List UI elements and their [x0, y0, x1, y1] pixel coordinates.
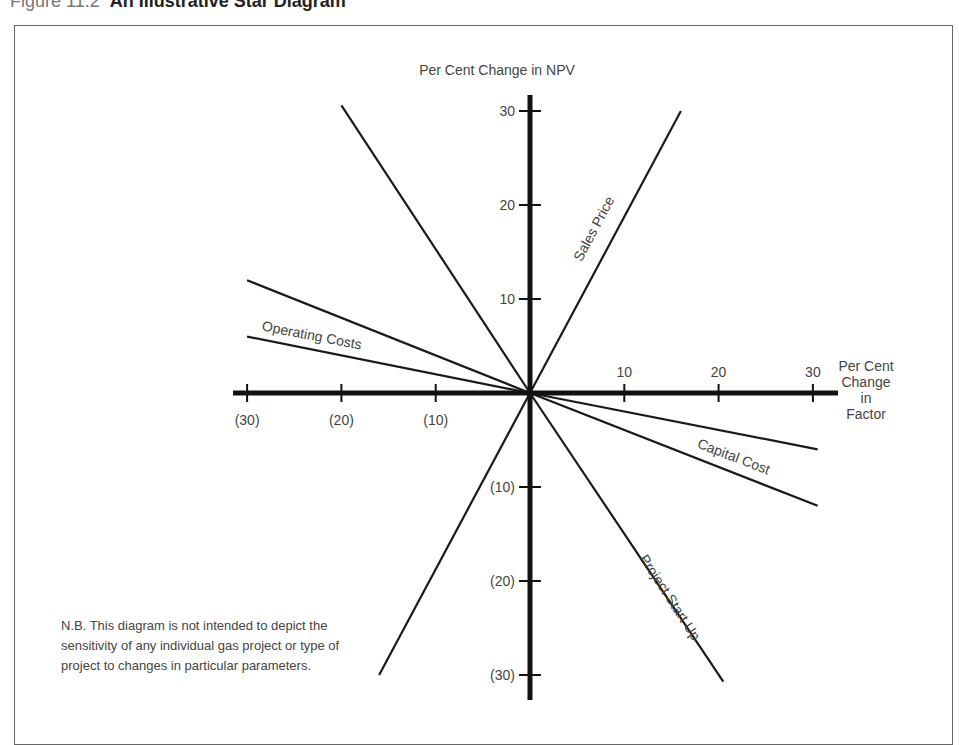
y-tick-label: 20 — [499, 197, 515, 213]
y-tick-label: (20) — [490, 573, 515, 589]
x-tick-label: 10 — [617, 364, 633, 380]
y-tick-label: 30 — [499, 103, 515, 119]
label-sales-price: Sales Price — [570, 193, 617, 263]
x-axis-label-line: Per Cent — [838, 358, 893, 374]
x-tick-label: (20) — [329, 412, 354, 428]
x-axis-label: Per CentChangeinFactor — [838, 358, 893, 422]
x-axis-label-line: Change — [841, 374, 890, 390]
series-line-operating-costs — [247, 337, 530, 393]
series-line-capital-cost-reduced — [530, 393, 818, 449]
x-tick-label: 30 — [805, 364, 821, 380]
series-line-sales-price-negative — [379, 393, 530, 675]
footnote: N.B. This diagram is not intended to dep… — [61, 616, 361, 676]
x-tick-label: (10) — [423, 412, 448, 428]
series-line-capital-cost — [530, 393, 818, 506]
x-axis-label-line: in — [861, 390, 872, 406]
y-tick-label: (30) — [490, 667, 515, 683]
y-tick-label: (10) — [490, 479, 515, 495]
y-axis-label: Per Cent Change in NPV — [419, 62, 575, 78]
series-line-project-start-up-negative — [341, 105, 530, 393]
series-line-sales-price — [530, 111, 681, 393]
label-capital-cost: Capital Cost — [695, 435, 772, 477]
x-tick-label: 20 — [711, 364, 727, 380]
x-axis-label-line: Factor — [846, 406, 886, 422]
x-tick-label: (30) — [235, 412, 260, 428]
y-tick-label: 10 — [499, 291, 515, 307]
label-operating-costs: Operating Costs — [261, 318, 363, 353]
axes — [233, 95, 838, 700]
label-project-start-up: Project Start Up — [637, 551, 704, 643]
